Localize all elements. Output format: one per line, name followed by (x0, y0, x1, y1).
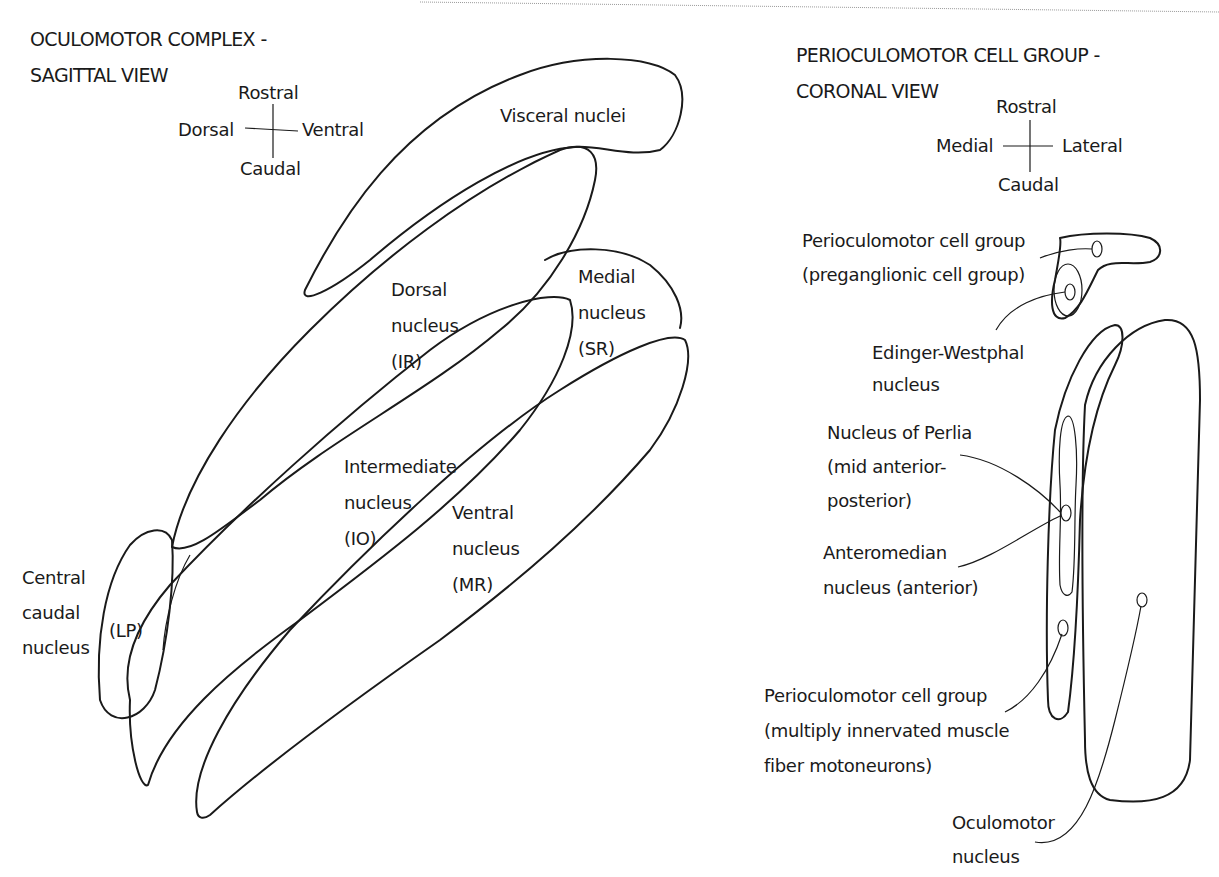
preganglionic-cell-group-outline (1052, 234, 1160, 319)
sagittal-compass-ventral: Ventral (302, 115, 364, 144)
diagram-canvas: OCULOMOTOR COMPLEX - SAGITTAL VIEW Rostr… (0, 0, 1219, 877)
sagittal-compass-caudal: Caudal (240, 154, 301, 183)
anteromedian-leader-line (958, 516, 1060, 567)
sagittal-compass-cross (245, 104, 298, 158)
visceral-nuclei-outline (304, 59, 682, 296)
nucleus-of-perlia-dot (1061, 505, 1071, 521)
coronal-compass-rostral: Rostral (996, 92, 1056, 121)
ventral-nucleus-outline (196, 338, 688, 818)
edinger-westphal-ring (1054, 264, 1082, 316)
preganglionic-cell-dot (1092, 241, 1102, 257)
edinger-westphal-cell-dot (1065, 284, 1075, 300)
sagittal-title-line2: SAGITTAL VIEW (30, 60, 168, 90)
coronal-compass-cross (1003, 120, 1053, 172)
coronal-compass-lateral: Lateral (1062, 131, 1123, 160)
coronal-compass-medial: Medial (936, 131, 993, 160)
top-border-line (420, 2, 1219, 12)
coronal-title-line2: CORONAL VIEW (796, 76, 938, 106)
perlia-leader-line (960, 455, 1060, 512)
coronal-compass-caudal: Caudal (998, 170, 1059, 199)
sagittal-compass-dorsal: Dorsal (178, 115, 234, 144)
label-lp: (LP) (109, 616, 143, 645)
medial-column-outline (1047, 325, 1123, 719)
sagittal-title-line1: OCULOMOTOR COMPLEX - (30, 24, 267, 54)
mif-cell-dot (1058, 620, 1068, 636)
oculomotor-cell-dot (1137, 593, 1147, 607)
label-visceral-nuclei: Visceral nuclei (500, 101, 626, 130)
coronal-title-line1: PERIOCULOMOTOR CELL GROUP - (796, 40, 1100, 70)
mif-leader-line (1005, 634, 1062, 712)
preganglionic-leader-line (1040, 249, 1092, 258)
oculomotor-nucleus-outline (1082, 320, 1200, 802)
sagittal-compass-rostral: Rostral (238, 78, 298, 107)
